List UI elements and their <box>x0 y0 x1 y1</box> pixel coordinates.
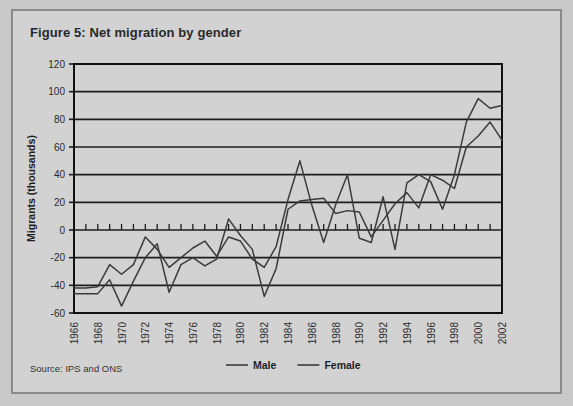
series-line-male <box>74 99 502 289</box>
y-tick-label: 0 <box>59 225 65 236</box>
x-tick-label: 1996 <box>426 322 437 345</box>
x-tick-label: 2002 <box>497 322 508 345</box>
x-tick-label: 1968 <box>93 322 104 345</box>
y-tick-label: -20 <box>51 252 66 263</box>
y-tick-label: 100 <box>48 86 65 97</box>
series-line-female <box>74 122 502 306</box>
y-tick-label: 60 <box>54 142 66 153</box>
legend-label-female: Female <box>324 359 360 371</box>
gridlines <box>69 64 502 313</box>
plot-frame <box>74 64 502 313</box>
chart-legend: MaleFemale <box>226 359 361 371</box>
chart-container: 120100806040200-20-40-60 196619681970197… <box>13 11 564 396</box>
y-tick-label: 40 <box>54 169 66 180</box>
x-tick-label: 1986 <box>307 322 318 345</box>
y-tick-label: 80 <box>54 114 66 125</box>
y-tick-label: 120 <box>48 59 65 70</box>
y-axis-tick-labels: 120100806040200-20-40-60 <box>48 59 65 319</box>
y-tick-label: -40 <box>51 280 66 291</box>
x-tick-label: 1998 <box>449 322 460 345</box>
x-axis-tick-labels: 1966196819701972197419761978198019821984… <box>69 322 508 345</box>
figure-card: Figure 5: Net migration by gender Source… <box>11 9 562 394</box>
x-tick-label: 1988 <box>331 322 342 345</box>
y-axis-title: Migrants (thousands) <box>25 135 37 242</box>
x-tick-label: 1980 <box>235 322 246 345</box>
x-tick-label: 1974 <box>164 322 175 345</box>
x-tick-label: 1966 <box>69 322 80 345</box>
x-tick-label: 1972 <box>140 322 151 345</box>
x-tick-label: 1976 <box>188 322 199 345</box>
legend-label-male: Male <box>253 359 277 371</box>
x-tick-label: 1970 <box>117 322 128 345</box>
net-migration-line-chart: 120100806040200-20-40-60 196619681970197… <box>13 11 564 396</box>
x-tick-label: 1994 <box>402 322 413 345</box>
x-tick-label: 1984 <box>283 322 294 345</box>
x-axis-minor-ticks <box>74 224 502 230</box>
x-tick-label: 1982 <box>259 322 270 345</box>
x-tick-label: 2000 <box>473 322 484 345</box>
y-tick-label: -60 <box>51 308 66 319</box>
y-tick-label: 20 <box>54 197 66 208</box>
x-tick-label: 1990 <box>354 322 365 345</box>
x-tick-label: 1978 <box>212 322 223 345</box>
x-tick-label: 1992 <box>378 322 389 345</box>
